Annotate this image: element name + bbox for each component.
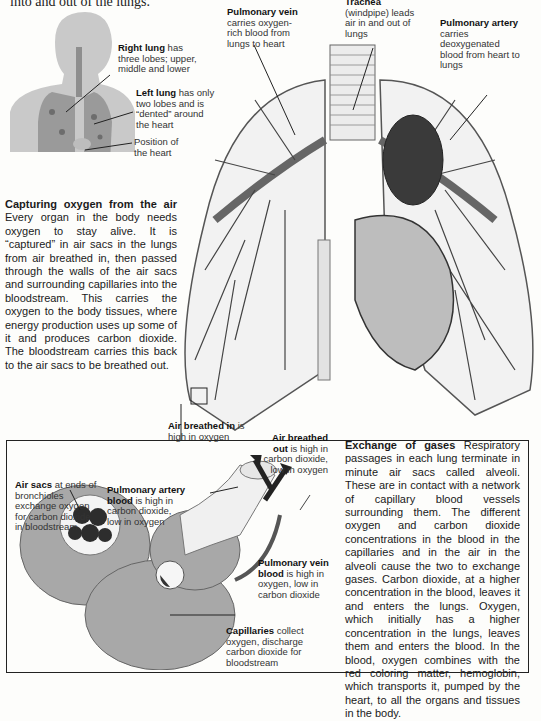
label-air-breathed-out: Air breathed out is high in carbon dioxi… (255, 433, 328, 475)
label-pulmonary-artery-blood: Pulmonary artery blood is high in carbon… (107, 485, 187, 527)
lungs-heart-illustration (175, 40, 541, 440)
label-air-breathed-in: Air breathed in is high in oxygen (168, 421, 248, 442)
cut-off-heading-text: into and out of the lungs. (10, 0, 150, 10)
label-capillaries: Capillaries collect oxygen, discharge ca… (226, 626, 311, 668)
exchange-of-gases-heading: Exchange of gases (345, 439, 455, 451)
capturing-oxygen-heading: Capturing oxygen from the air (5, 198, 177, 210)
label-pulmonary-artery: Pulmonary arterycarries deoxygenated blo… (440, 18, 520, 71)
body-silhouette-illustration (0, 12, 170, 152)
label-pulmonary-vein: Pulmonary veincarries oxygen-rich blood … (227, 7, 307, 49)
label-trachea: Trachea(windpipe) leads air in and out o… (345, 0, 420, 39)
capturing-oxygen-paragraph: Capturing oxygen from the air Every orga… (5, 198, 177, 372)
label-pulmonary-vein-blood: Pulmonary vein blood is high in oxygen, … (258, 558, 330, 600)
label-air-sacs: Air sacs at ends of bronchioles exchange… (15, 480, 100, 533)
exchange-of-gases-paragraph: Exchange of gases Respiratory passages i… (345, 439, 520, 721)
